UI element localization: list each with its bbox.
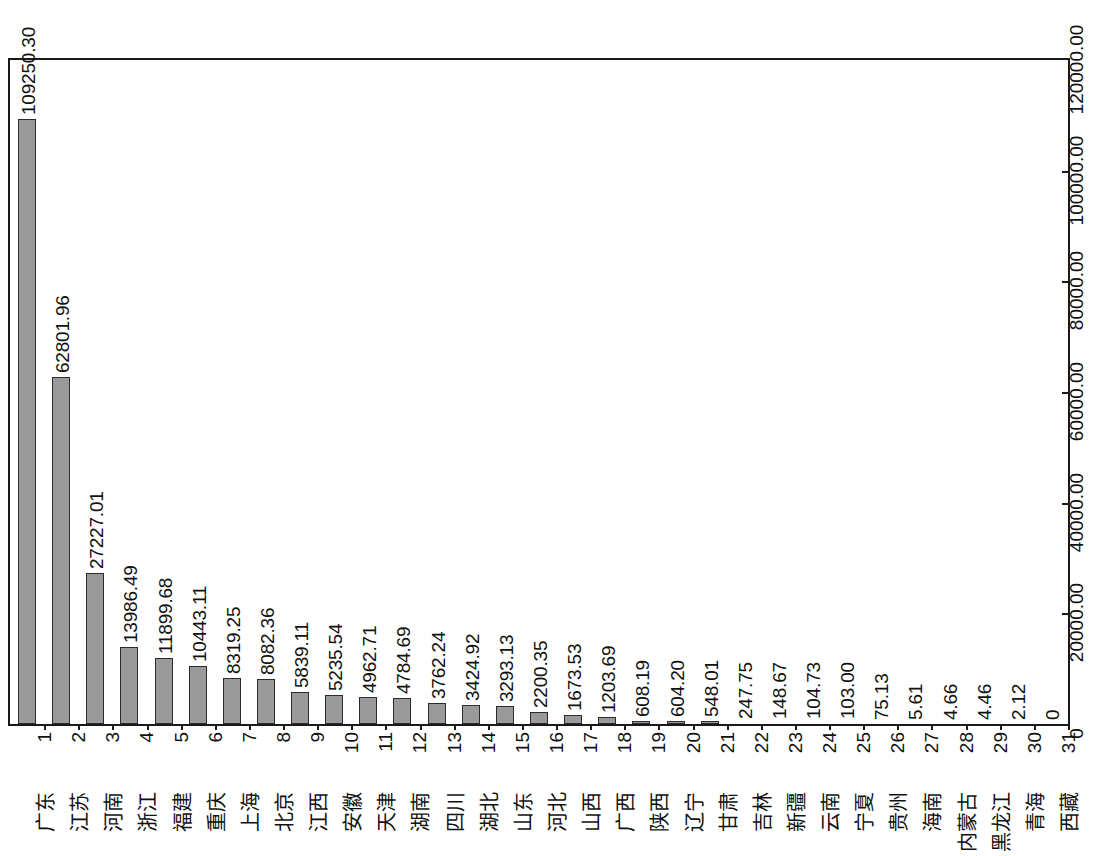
bar-value-label: 2.12 bbox=[1009, 684, 1028, 720]
bar[interactable] bbox=[462, 705, 480, 724]
category-name-slot: 辽宁 bbox=[658, 790, 692, 856]
bar[interactable] bbox=[428, 703, 446, 724]
bar[interactable] bbox=[393, 698, 411, 724]
category-index-slot: 28 bbox=[931, 730, 965, 788]
bar[interactable] bbox=[598, 717, 616, 724]
category-index-slot: 8 bbox=[249, 730, 283, 788]
category-name-slot: 福建 bbox=[147, 790, 181, 856]
category-name-axis: 广东江苏河南浙江福建重庆上海北京江西安徽天津湖南四川湖北山东河北山西广西陕西辽宁… bbox=[10, 790, 1068, 856]
category-name-slot: 山西 bbox=[556, 790, 590, 856]
category-name-slot: 内蒙古 bbox=[931, 790, 965, 856]
bar[interactable] bbox=[223, 678, 241, 724]
value-axis-tick-label: 60000.00 bbox=[1067, 362, 1086, 441]
bar-value-label: 75.13 bbox=[872, 673, 891, 720]
bar[interactable] bbox=[86, 573, 104, 724]
category-name-slot: 海南 bbox=[897, 790, 931, 856]
category-index-slot: 27 bbox=[897, 730, 931, 788]
category-index-slot: 7 bbox=[215, 730, 249, 788]
category-name-slot: 陕西 bbox=[624, 790, 658, 856]
category-name-slot: 云南 bbox=[795, 790, 829, 856]
bar[interactable] bbox=[530, 712, 548, 724]
bar-value-label: 62801.96 bbox=[53, 295, 72, 373]
bar[interactable] bbox=[359, 697, 377, 724]
bar[interactable] bbox=[189, 666, 207, 724]
bar[interactable] bbox=[155, 658, 173, 724]
category-index-slot: 25 bbox=[829, 730, 863, 788]
category-name-slot: 浙江 bbox=[112, 790, 146, 856]
bar-value-label: 5.61 bbox=[906, 684, 925, 720]
bar[interactable] bbox=[120, 647, 138, 724]
bar-value-label: 247.75 bbox=[736, 662, 755, 719]
value-axis-tick-label: 80000.00 bbox=[1067, 251, 1086, 330]
category-name-slot: 宁夏 bbox=[829, 790, 863, 856]
bar-value-label: 5839.11 bbox=[292, 622, 311, 688]
bar-value-label: 604.20 bbox=[668, 660, 687, 717]
bar[interactable] bbox=[52, 377, 70, 725]
category-index-slot: 15 bbox=[488, 730, 522, 788]
bar-chart: 109250.3062801.9627227.0113986.4911899.6… bbox=[0, 0, 1111, 856]
category-index-slot: 5 bbox=[147, 730, 181, 788]
bar-value-label: 11899.68 bbox=[156, 578, 175, 654]
category-name-slot: 河南 bbox=[78, 790, 112, 856]
category-index-slot: 4 bbox=[112, 730, 146, 788]
bar[interactable] bbox=[291, 692, 309, 724]
category-index-slot: 26 bbox=[863, 730, 897, 788]
value-axis-tick-label: 100000.00 bbox=[1067, 135, 1086, 225]
value-axis-tick-label: 120000.00 bbox=[1067, 25, 1086, 115]
bar[interactable] bbox=[18, 119, 36, 724]
bar-value-label: 13986.49 bbox=[121, 565, 140, 643]
category-name-slot: 吉林 bbox=[727, 790, 761, 856]
bar[interactable] bbox=[496, 706, 514, 724]
category-name-slot: 江西 bbox=[283, 790, 317, 856]
category-name-label: 西藏 bbox=[1060, 792, 1080, 832]
category-index-slot: 21 bbox=[693, 730, 727, 788]
bar[interactable] bbox=[257, 679, 275, 724]
bar-value-label: 4.46 bbox=[975, 684, 994, 720]
category-name-slot: 湖北 bbox=[454, 790, 488, 856]
category-index-slot: 14 bbox=[454, 730, 488, 788]
category-name-slot: 新疆 bbox=[761, 790, 795, 856]
bar-value-label: 103.00 bbox=[838, 663, 857, 720]
category-name-slot: 湖南 bbox=[385, 790, 419, 856]
category-name-slot: 广西 bbox=[590, 790, 624, 856]
category-index-slot: 10 bbox=[317, 730, 351, 788]
bar-value-label: 3762.24 bbox=[429, 632, 448, 699]
category-index-slot: 11 bbox=[351, 730, 385, 788]
bar-value-label: 3293.13 bbox=[497, 635, 516, 702]
category-index-slot: 1 bbox=[10, 730, 44, 788]
category-name-slot: 安徽 bbox=[317, 790, 351, 856]
category-name-slot: 山东 bbox=[488, 790, 522, 856]
category-name-slot: 天津 bbox=[351, 790, 385, 856]
category-name-slot: 上海 bbox=[215, 790, 249, 856]
bar-value-label: 148.67 bbox=[770, 662, 789, 719]
category-name-slot: 广东 bbox=[10, 790, 44, 856]
category-index-slot: 20 bbox=[658, 730, 692, 788]
category-name-slot: 河北 bbox=[522, 790, 556, 856]
category-name-slot: 青海 bbox=[1000, 790, 1034, 856]
category-name-slot: 甘肃 bbox=[693, 790, 727, 856]
bar-value-label: 8082.36 bbox=[258, 608, 277, 675]
bar[interactable] bbox=[564, 715, 582, 724]
bar-value-label: 5235.54 bbox=[326, 624, 345, 691]
bar-value-label: 3424.92 bbox=[463, 634, 482, 701]
category-name-slot: 四川 bbox=[420, 790, 454, 856]
category-index-axis: 1234567891011121314151617181920212223242… bbox=[10, 730, 1068, 788]
category-index-slot: 30 bbox=[1000, 730, 1034, 788]
bar[interactable] bbox=[325, 695, 343, 724]
bar-value-label: 4962.71 bbox=[360, 625, 379, 692]
bar-value-label: 104.73 bbox=[804, 663, 823, 720]
category-index-slot: 18 bbox=[590, 730, 624, 788]
category-index-slot: 19 bbox=[624, 730, 658, 788]
category-index-slot: 24 bbox=[795, 730, 829, 788]
bar-value-label: 608.19 bbox=[633, 660, 652, 717]
category-index-slot: 29 bbox=[966, 730, 1000, 788]
category-name-slot: 黑龙江 bbox=[966, 790, 1000, 856]
category-index-slot: 13 bbox=[420, 730, 454, 788]
bar-value-label: 548.01 bbox=[702, 660, 721, 717]
bar-value-label: 27227.01 bbox=[87, 492, 106, 570]
bar-value-label: 4784.69 bbox=[394, 626, 413, 693]
category-index-slot: 2 bbox=[44, 730, 78, 788]
bar-value-label: 8319.25 bbox=[224, 607, 243, 674]
category-name-slot: 西藏 bbox=[1034, 790, 1068, 856]
value-axis: 020000.0040000.0060000.0080000.00100000.… bbox=[1070, 58, 1111, 726]
